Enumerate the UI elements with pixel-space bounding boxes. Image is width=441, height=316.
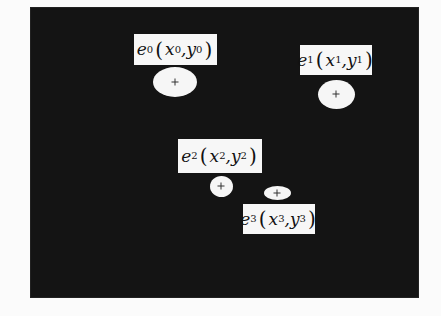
label-subscript: 0 — [147, 45, 153, 55]
close-paren: ) — [308, 209, 316, 229]
centroid-cross-icon — [274, 190, 281, 197]
label-y-symbol: y — [290, 211, 300, 228]
label-y-subscript: 1 — [357, 55, 363, 65]
label-e0: e0(x0, y0) — [134, 34, 217, 65]
label-y-symbol: y — [186, 41, 196, 58]
centroid-cross-icon — [218, 183, 225, 190]
label-y-subscript: 0 — [196, 45, 202, 55]
open-paren: ( — [155, 40, 163, 60]
label-name: e — [297, 52, 307, 69]
centroid-cross-icon — [172, 79, 179, 86]
label-y-subscript: 2 — [241, 151, 247, 161]
label-e2: e2(x2, y2) — [178, 139, 262, 173]
label-e1: e1(x1, y1) — [300, 45, 372, 75]
label-name: e — [181, 148, 191, 165]
label-subscript: 1 — [307, 55, 313, 65]
label-name: e — [137, 41, 147, 58]
label-y-symbol: y — [231, 148, 241, 165]
label-x-symbol: x — [165, 41, 175, 58]
close-paren: ) — [249, 146, 257, 166]
open-paren: ( — [316, 50, 324, 70]
label-y-symbol: y — [347, 52, 357, 69]
label-subscript: 2 — [191, 151, 197, 161]
centroid-cross-icon — [333, 91, 340, 98]
label-subscript: 3 — [250, 214, 256, 224]
label-x-symbol: x — [326, 52, 336, 69]
open-paren: ( — [200, 146, 208, 166]
close-paren: ) — [204, 40, 212, 60]
label-y-subscript: 3 — [300, 214, 306, 224]
label-x-symbol: x — [210, 148, 220, 165]
label-name: e — [240, 211, 250, 228]
label-x-symbol: x — [269, 211, 279, 228]
label-e3: e3(x3, y3) — [243, 204, 315, 234]
close-paren: ) — [365, 50, 373, 70]
blob-detection-figure: e0(x0, y0)e1(x1, y1)e2(x2, y2)e3(x3, y3) — [0, 0, 441, 316]
open-paren: ( — [259, 209, 267, 229]
